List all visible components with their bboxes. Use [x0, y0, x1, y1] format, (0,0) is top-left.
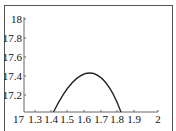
y-tick-label: 17.2 [3, 89, 22, 101]
chart: 18 17.8 17.6 17.4 17.2 17 1.3 1.4 1.5 1.… [0, 0, 176, 131]
y-tick-label: 18 [11, 13, 23, 25]
x-tick-label: 1.7 [94, 113, 108, 125]
y-tick-label: 17.4 [3, 70, 23, 82]
x-tick-label: 1.9 [127, 113, 141, 125]
x-tick-label: 1.4 [44, 113, 58, 125]
y-tick-label: 17.8 [3, 32, 23, 44]
x-tick-label: 1.6 [77, 113, 91, 125]
y-tick-label: 17 [13, 113, 25, 125]
x-tick-labels: 1.3 1.4 1.5 1.6 1.7 1.8 1.9 2 [28, 113, 161, 125]
data-curve [54, 73, 122, 112]
y-tick-labels: 18 17.8 17.6 17.4 17.2 17 [3, 13, 25, 125]
x-tick-label: 2 [155, 113, 161, 125]
x-tick-label: 1.3 [28, 113, 42, 125]
y-tick-label: 17.6 [3, 51, 23, 63]
x-tick-label: 1.5 [60, 113, 74, 125]
x-tick-label: 1.8 [110, 113, 124, 125]
